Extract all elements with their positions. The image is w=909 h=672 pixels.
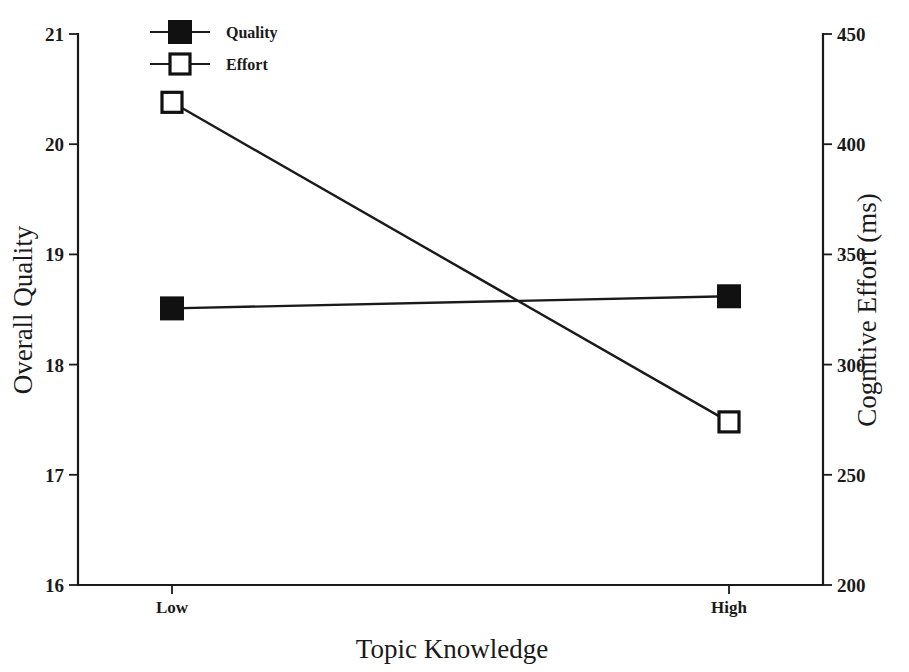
legend-marker-quality <box>169 21 191 43</box>
left-tick-label: 17 <box>45 465 65 486</box>
series-line-quality <box>172 296 729 308</box>
data-point-quality-high <box>718 285 740 307</box>
chart-figure: 212019181716 450400350300250200 LowHigh … <box>0 0 909 672</box>
data-point-quality-low <box>161 297 183 319</box>
left-axis-title: Overall Quality <box>8 225 38 394</box>
series-line-effort <box>172 102 729 422</box>
left-tick-label: 20 <box>45 134 64 155</box>
right-tick-label: 400 <box>837 134 866 155</box>
legend-marker-effort <box>170 54 190 74</box>
x-tick-label: Low <box>156 598 189 617</box>
x-axis-ticks: LowHigh <box>156 585 748 617</box>
legend-label: Quality <box>226 24 278 42</box>
right-axis-title: Cognitive Effort (ms) <box>852 193 882 426</box>
series-quality <box>161 285 740 319</box>
axis-frame <box>78 34 823 585</box>
legend: QualityEffort <box>150 21 278 74</box>
left-tick-label: 21 <box>45 24 64 45</box>
left-tick-label: 19 <box>45 244 64 265</box>
data-point-effort-low <box>162 92 182 112</box>
right-tick-label: 450 <box>837 24 866 45</box>
legend-label: Effort <box>226 56 268 73</box>
axes-group <box>78 34 823 585</box>
data-point-effort-high <box>719 412 739 432</box>
left-tick-label: 16 <box>45 575 64 596</box>
left-tick-label: 18 <box>45 355 64 376</box>
legend-item-effort: Effort <box>150 54 268 74</box>
series-group <box>161 92 740 432</box>
series-effort <box>162 92 739 432</box>
x-tick-label: High <box>711 598 747 617</box>
x-axis-title: Topic Knowledge <box>356 634 548 664</box>
right-tick-label: 200 <box>837 575 866 596</box>
left-axis-ticks: 212019181716 <box>45 24 78 596</box>
legend-item-quality: Quality <box>150 21 278 43</box>
right-tick-label: 250 <box>837 465 866 486</box>
chart-canvas: 212019181716 450400350300250200 LowHigh … <box>0 0 909 672</box>
